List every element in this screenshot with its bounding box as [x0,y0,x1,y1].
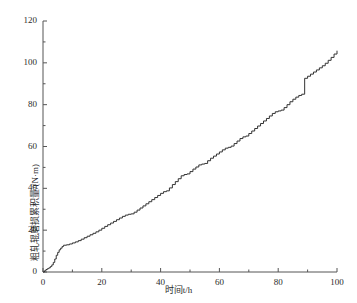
y-tick-label: 100 [3,58,37,67]
x-axis-title: 时间t/h [0,283,357,296]
y-tick-label: 120 [3,16,37,25]
chart-axes [0,0,357,303]
y-axis-title: 粗轧辊磨损累积量/(N·m) [28,138,41,288]
tick-marks [43,21,337,272]
y-tick-label: 80 [3,100,37,109]
axis-lines [43,21,337,272]
chart-figure: 020406080100120 020406080100 时间t/h 粗轧辊磨损… [0,0,357,303]
data-series-group [43,51,337,272]
y-axis-title-wrapper: 粗轧辊磨损累积量/(N·m) [14,66,15,67]
cumulative-wear-step-line [43,51,337,272]
